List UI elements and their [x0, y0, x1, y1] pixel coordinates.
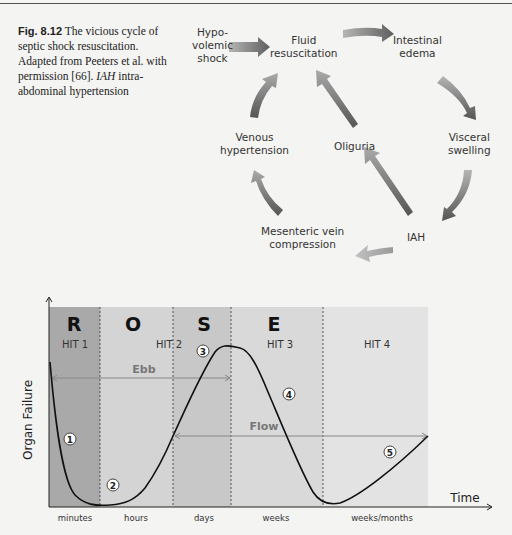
- phase-o-region: [100, 307, 173, 507]
- phase-letter-e: E: [268, 313, 281, 335]
- ebb-label: Ebb: [132, 363, 155, 376]
- svg-text:4: 4: [286, 390, 292, 400]
- hit-3-label: HIT 3: [267, 339, 293, 350]
- x-tick-hours: hours: [124, 513, 148, 523]
- marker-1: 1: [64, 433, 76, 445]
- marker-5: 5: [384, 446, 396, 458]
- phase-letter-s: S: [197, 313, 211, 335]
- marker-2: 2: [107, 479, 119, 491]
- phase-r-region: [49, 307, 100, 507]
- phase-e-region: [231, 307, 323, 507]
- marker-3: 3: [197, 345, 209, 357]
- marker-4: 4: [283, 388, 295, 400]
- x-axis-label: Time: [449, 491, 479, 505]
- phase-hit4-region: [323, 307, 428, 507]
- x-tick-days: days: [194, 513, 215, 523]
- x-tick-weeks-months: weeks/months: [351, 513, 413, 523]
- svg-text:5: 5: [387, 448, 393, 458]
- flow-label: Flow: [249, 420, 278, 433]
- x-tick-weeks: weeks: [263, 513, 290, 523]
- hit-1-label: HIT 1: [62, 339, 88, 350]
- phase-s-region: [173, 307, 231, 507]
- y-axis-label: Organ Failure: [21, 380, 35, 460]
- phase-letter-r: R: [67, 313, 82, 335]
- rose-chart: 1 2 3 4 5 R O S E HIT 1 HIT 2 HIT 3 HIT …: [0, 0, 512, 535]
- svg-text:1: 1: [67, 435, 73, 445]
- svg-text:3: 3: [200, 347, 206, 357]
- hit-4-label: HIT 4: [364, 339, 390, 350]
- phase-letter-o: O: [125, 313, 141, 335]
- hit-2-label: HIT 2: [156, 339, 182, 350]
- x-tick-minutes: minutes: [58, 513, 93, 523]
- svg-text:2: 2: [110, 481, 116, 491]
